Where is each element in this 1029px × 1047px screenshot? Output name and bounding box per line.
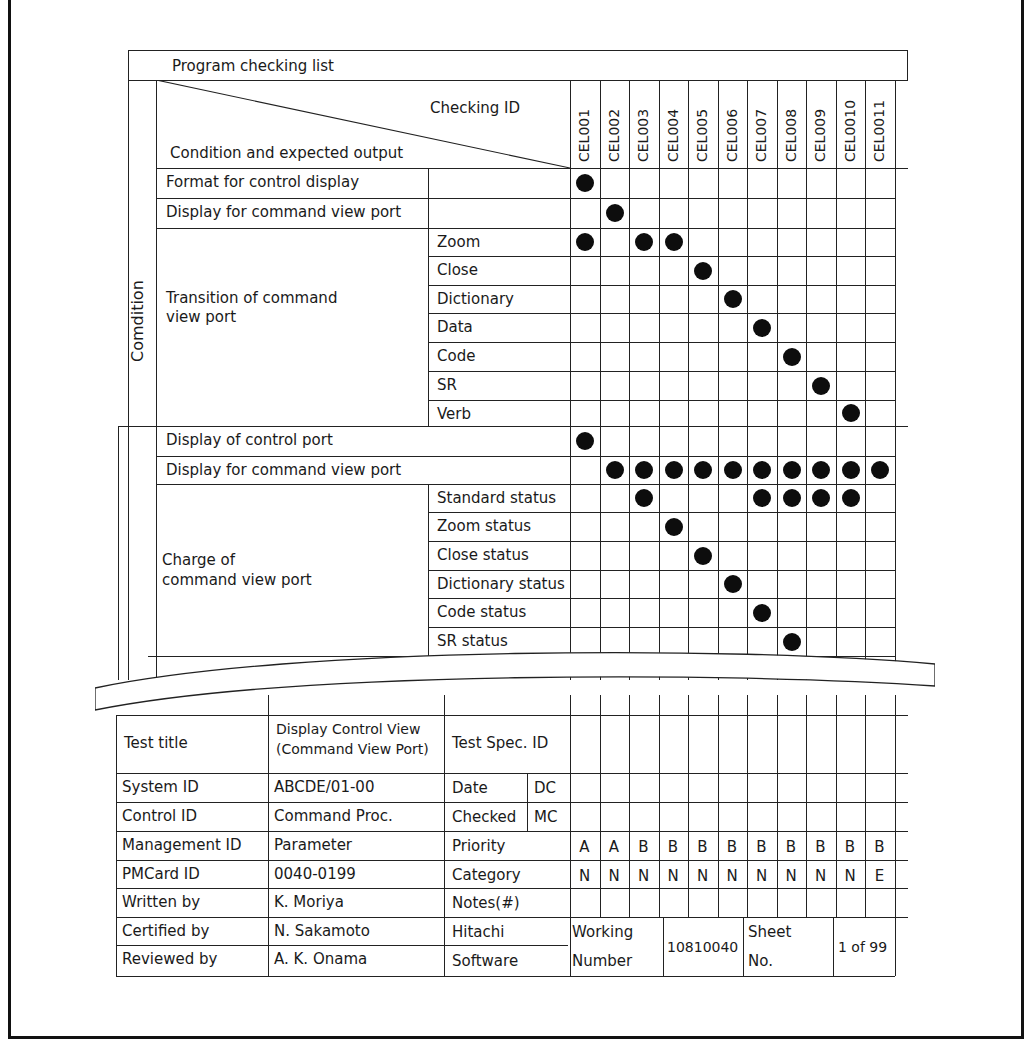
check-mark [812, 377, 830, 395]
check-mark [635, 233, 653, 251]
check-mark [635, 489, 653, 507]
checking-id-cel004: CEL004 [666, 109, 680, 162]
condition_section-item-3: Close [437, 263, 478, 278]
check-mark [576, 174, 594, 192]
check-mark [665, 461, 683, 479]
working-number-label-2: Number [572, 954, 632, 969]
working-number-value: 10810040 [667, 940, 738, 954]
check-mark [812, 461, 830, 479]
sheet-title: Program checking list [172, 59, 334, 74]
category-value: N [718, 869, 747, 884]
check-mark [665, 518, 683, 536]
working-number-label: Working [572, 925, 633, 940]
check-mark [783, 461, 801, 479]
priority-value: A [600, 840, 629, 855]
priority-value: B [688, 840, 717, 855]
control-id-label: Control ID [122, 809, 197, 824]
check-mark [694, 262, 712, 280]
category-value: N [659, 869, 688, 884]
check-mark [724, 461, 742, 479]
company-label-2: Software [452, 954, 518, 969]
output_section-item-6: Code status [437, 605, 526, 620]
check-mark [783, 489, 801, 507]
check-mark [783, 348, 801, 366]
checking-id-label: Checking ID [430, 101, 520, 116]
check-mark [724, 290, 742, 308]
reviewed-by-value: A. K. Onama [274, 952, 367, 967]
check-mark [842, 489, 860, 507]
sheet-no-label: Sheet [748, 925, 791, 940]
check-mark [606, 461, 624, 479]
reviewed-by-label: Reviewed by [122, 952, 217, 967]
output_section-group-0: Display of control port [166, 433, 333, 448]
management-id-label: Management ID [122, 838, 242, 853]
category-value: N [747, 869, 776, 884]
check-mark [753, 319, 771, 337]
certified-by-value: N. Sakamoto [274, 924, 370, 939]
condition_section-item-2: Zoom [437, 235, 480, 250]
condition_section-group-1: Display for command view port [166, 205, 401, 220]
category-value: E [865, 869, 894, 884]
transition-group-label: Transition of command [166, 291, 337, 306]
control-id-value: Command Proc. [274, 809, 393, 824]
notes-label: Notes(#) [452, 896, 520, 911]
condition_section-item-8: Verb [437, 407, 471, 422]
condition_section-group-0: Format for control display [166, 175, 359, 190]
written-by-value: K. Moriya [274, 895, 344, 910]
check-mark [576, 432, 594, 450]
priority-label: Priority [452, 839, 505, 854]
category-label: Category [452, 868, 521, 883]
check-mark [753, 461, 771, 479]
management-id-value: Parameter [274, 838, 352, 853]
priority-value: B [777, 840, 806, 855]
system-id-value: ABCDE/01-00 [274, 780, 374, 795]
category-value: N [777, 869, 806, 884]
charge-group-label: Charge of [162, 553, 235, 568]
checking-id-cel006: CEL006 [725, 109, 739, 162]
priority-value: B [659, 840, 688, 855]
written-by-label: Written by [122, 895, 200, 910]
check-mark [842, 461, 860, 479]
output_section-item-4: Close status [437, 548, 529, 563]
check-mark [665, 233, 683, 251]
condition_section-item-5: Data [437, 320, 473, 335]
pmcard-id-value: 0040-0199 [274, 867, 356, 882]
checking-id-cel003: CEL003 [636, 109, 650, 162]
checking-id-cel007: CEL007 [754, 109, 768, 162]
priority-value: B [865, 840, 894, 855]
condition_section-item-4: Dictionary [437, 292, 514, 307]
output_section-item-3: Zoom status [437, 519, 531, 534]
checking-id-cel005: CEL005 [695, 109, 709, 162]
check-mark [576, 233, 594, 251]
checked-label: Checked [452, 810, 516, 825]
test-title-label: Test title [124, 736, 188, 751]
sheet-no-value: 1 of 99 [838, 940, 887, 954]
category-value: N [600, 869, 629, 884]
check-mark [694, 461, 712, 479]
check-mark [871, 461, 889, 479]
check-mark [842, 404, 860, 422]
priority-value: B [806, 840, 835, 855]
test-title-value-2: (Command View Port) [276, 742, 429, 756]
priority-value: B [629, 840, 658, 855]
check-mark [724, 575, 742, 593]
mc-label: MC [534, 810, 557, 825]
check-mark [606, 204, 624, 222]
category-value: N [629, 869, 658, 884]
dc-label: DC [534, 781, 556, 796]
charge-group-label-2: command view port [162, 573, 312, 588]
break-wave [95, 650, 935, 730]
checking-id-cel009: CEL009 [813, 109, 827, 162]
system-id-label: System ID [122, 780, 199, 795]
test-spec-id-label: Test Spec. ID [452, 736, 548, 751]
condition-section-label: Comdition [130, 280, 146, 362]
checking-id-cel008: CEL008 [784, 109, 798, 162]
sheet-no-label-2: No. [748, 954, 773, 969]
date-label: Date [452, 781, 488, 796]
check-mark [694, 547, 712, 565]
check-mark [783, 633, 801, 651]
priority-value: B [718, 840, 747, 855]
category-value: N [806, 869, 835, 884]
check-mark [753, 604, 771, 622]
test-title-value: Display Control View [276, 722, 420, 736]
